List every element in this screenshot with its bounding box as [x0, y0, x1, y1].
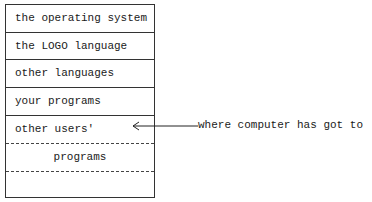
- row-logo-language: the LOGO language: [6, 33, 154, 60]
- row-your-programs: your programs: [6, 88, 154, 116]
- row-operating-system: the operating system: [6, 5, 154, 33]
- row-other-languages: other languages: [6, 60, 154, 88]
- annotation-label: where computer has got to: [198, 119, 363, 131]
- row-programs: programs: [6, 144, 154, 172]
- memory-diagram-box: the operating system the LOGO language o…: [5, 4, 155, 198]
- row-empty: [6, 172, 154, 198]
- arrow-left-icon: [130, 121, 200, 131]
